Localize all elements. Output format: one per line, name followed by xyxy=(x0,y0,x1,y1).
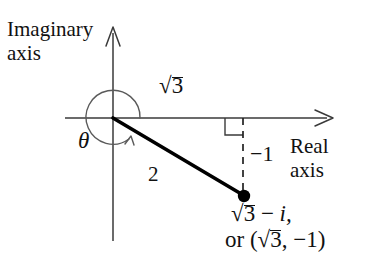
imaginary-axis-label-line1: Imaginary xyxy=(7,17,93,41)
radical-glyph: √ xyxy=(159,73,172,98)
real-component-label: √3 xyxy=(159,73,183,99)
imaginary-component-label: −1 xyxy=(250,142,273,167)
imaginary-unit: i, xyxy=(280,201,292,226)
imaginary-axis-label: Imaginary axis xyxy=(7,18,93,65)
vinculum-line2 xyxy=(270,230,281,231)
plotted-point-label-line2: or (√3, −1) xyxy=(225,227,325,253)
plotted-point-label-line1: √3 − i, xyxy=(231,201,292,226)
minus-operator: − xyxy=(255,201,279,226)
modulus-label: 2 xyxy=(148,163,159,187)
ordered-pair-suffix: , −1) xyxy=(282,227,326,252)
radical-sign-line1: √3 xyxy=(231,201,255,227)
complex-plane-figure: Imaginary axis Real axis √3 2 θ −1 √3 − … xyxy=(0,0,369,269)
radical-sign-line2: √3 xyxy=(258,227,282,253)
angle-theta-label: θ xyxy=(78,128,89,154)
right-angle-marker xyxy=(225,118,243,135)
ordered-pair-prefix: or ( xyxy=(225,227,258,252)
radical-glyph-line2: √ xyxy=(258,227,271,252)
vinculum xyxy=(172,77,183,78)
radical-glyph-line1: √ xyxy=(231,201,244,226)
modulus-ray xyxy=(113,118,243,195)
real-axis-label: Real axis xyxy=(290,135,328,182)
real-axis-label-line2: axis xyxy=(290,158,324,182)
real-axis-label-line1: Real xyxy=(290,134,328,158)
imaginary-axis-label-line2: axis xyxy=(7,41,41,65)
plotted-point-label: √3 − i, or (√3, −1) xyxy=(231,201,325,253)
radical-sign: √3 xyxy=(159,73,183,99)
vinculum-line1 xyxy=(244,205,255,206)
